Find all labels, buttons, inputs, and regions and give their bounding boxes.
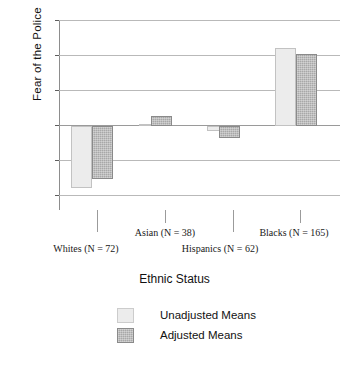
legend-swatch-adjusted <box>117 328 134 343</box>
gridline--0.2 <box>59 195 340 196</box>
chart-legend: Unadjusted Means Adjusted Means <box>117 305 256 345</box>
bar-asian-adjusted <box>151 116 172 126</box>
bar-chart: Fear of the Police 0.3 0.2 0.1 0 -0.1 -0… <box>0 0 349 369</box>
x-category-label-asian: Asian (N = 38) <box>105 227 225 238</box>
bar-blacks-adjusted <box>296 54 317 126</box>
x-tick-2 <box>165 210 166 223</box>
x-category-label-blacks: Blacks (N = 165) <box>234 227 349 238</box>
x-tick-4 <box>300 210 301 223</box>
x-tick-1 <box>97 210 98 232</box>
bar-blacks-unadjusted <box>275 48 296 126</box>
plot-area <box>59 20 340 210</box>
gridline-0.3 <box>59 20 340 21</box>
legend-item-adjusted: Adjusted Means <box>117 325 256 345</box>
legend-label-unadjusted: Unadjusted Means <box>160 309 256 321</box>
x-category-label-hispanics: Hispanics (N = 62) <box>160 243 280 254</box>
legend-label-adjusted: Adjusted Means <box>160 329 242 341</box>
y-axis-title: Fear of the Police <box>31 0 43 129</box>
bar-whites-adjusted <box>92 126 113 179</box>
legend-item-unadjusted: Unadjusted Means <box>117 305 256 325</box>
legend-swatch-unadjusted <box>117 308 134 323</box>
bar-whites-unadjusted <box>71 126 92 188</box>
bar-hispanics-adjusted <box>219 126 240 138</box>
x-category-label-whites: Whites (N = 72) <box>26 243 146 254</box>
x-axis-title: Ethnic Status <box>0 272 349 286</box>
